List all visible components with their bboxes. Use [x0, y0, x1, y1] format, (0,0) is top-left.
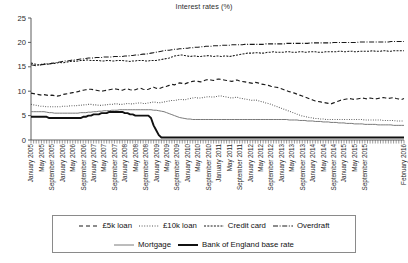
x-axis-tick-label: September 2011: [236, 144, 244, 191]
svg-text:5: 5: [22, 111, 26, 120]
legend-label-credit-card: Credit card: [228, 221, 266, 230]
x-axis-tick-label: January 2008: [121, 144, 129, 183]
x-axis-tick-label: May 2010: [194, 144, 202, 172]
x-axis-tick-label: January 2010: [184, 144, 192, 183]
x-axis-tick-label: May 2015: [351, 144, 359, 172]
legend-swatch-10k-loan: [139, 222, 159, 230]
series-line: [31, 112, 404, 138]
x-axis-tick-label: January 2011: [215, 144, 223, 182]
x-axis-tick-label: January 2014: [309, 144, 317, 183]
legend-label-base-rate: Bank of England base rate: [202, 240, 294, 249]
plot-area: 0510152025: [0, 12, 408, 144]
x-axis-tick-label: May 2014: [320, 144, 328, 172]
x-axis-tick-label: September 2008: [142, 144, 150, 191]
x-axis-tick-label: September 2015: [361, 144, 369, 191]
x-axis-tick-label: January 2012: [247, 144, 255, 183]
legend-swatch-overdraft: [273, 222, 293, 230]
x-axis-tick-label: January 2013: [278, 144, 286, 183]
x-axis-tick-label: January 2007: [90, 144, 98, 183]
series-line: [31, 79, 404, 104]
legend-label-10k-loan: £10k loan: [163, 221, 197, 230]
legend-swatch-credit-card: [204, 222, 224, 230]
series-line: [31, 110, 404, 126]
x-axis-tick-label: January 2005: [27, 144, 35, 183]
x-axis-tick-label: September 2014: [330, 144, 338, 191]
x-axis-svg: January 2005May 2005September 2005Januar…: [0, 142, 408, 214]
interest-rates-chart: Interest rates (%) 0510152025 January 20…: [0, 0, 408, 263]
legend-item-base-rate[interactable]: Bank of England base rate: [178, 240, 294, 249]
legend-swatch-5k-loan: [79, 222, 99, 230]
legend-row-2: Mortgage Bank of England base rate: [53, 235, 355, 254]
x-axis-tick-label: January 2006: [59, 144, 67, 183]
x-axis-tick-label: January 2009: [153, 144, 161, 183]
svg-text:15: 15: [18, 62, 26, 71]
svg-text:20: 20: [18, 38, 26, 47]
x-axis-tick-label: September 2012: [267, 144, 275, 191]
legend-row-1: £5k loan £10k loan Credit card Overdraft: [53, 216, 355, 235]
x-axis-tick-label: May 2009: [163, 144, 171, 172]
x-axis-tick-label: February 2016: [400, 144, 408, 185]
plot-svg: 0510152025: [0, 12, 408, 144]
legend-item-10k-loan[interactable]: £10k loan: [139, 221, 197, 230]
x-axis-tick-label: May 2006: [69, 144, 77, 172]
chart-legend: £5k loan £10k loan Credit card Overdraft: [52, 215, 356, 253]
legend-label-overdraft: Overdraft: [297, 221, 330, 230]
x-axis-tick-label: May 2012: [257, 144, 265, 172]
legend-item-5k-loan[interactable]: £5k loan: [79, 221, 132, 230]
legend-label-mortgage: Mortgage: [138, 240, 171, 249]
x-axis-tick-label: September 2009: [173, 144, 181, 191]
legend-item-credit-card[interactable]: Credit card: [204, 221, 266, 230]
legend-label-5k-loan: £5k loan: [103, 221, 132, 230]
x-axis-tick-label: January 2015: [340, 144, 348, 183]
chart-title: Interest rates (%): [0, 2, 408, 11]
x-axis-tick-label: May 2011: [226, 144, 234, 172]
x-axis-tick-label: September 2013: [299, 144, 307, 191]
legend-swatch-base-rate: [178, 241, 198, 249]
x-axis-tick-label: September 2006: [80, 144, 88, 191]
legend-item-mortgage[interactable]: Mortgage: [114, 240, 171, 249]
x-axis-tick-label: May 2013: [288, 144, 296, 172]
series-line: [31, 41, 404, 65]
svg-text:25: 25: [18, 14, 26, 23]
x-axis-tick-label: September 2007: [111, 144, 119, 191]
svg-text:10: 10: [18, 87, 26, 96]
x-axis-tick-label: May 2005: [38, 144, 46, 172]
x-axis-tick-label: May 2007: [100, 144, 108, 172]
x-axis-tick-label: September 2005: [48, 144, 56, 191]
x-axis-tick-label: September 2010: [205, 144, 213, 191]
legend-swatch-mortgage: [114, 241, 134, 249]
legend-item-overdraft[interactable]: Overdraft: [273, 221, 330, 230]
x-axis-tick-label: May 2008: [132, 144, 140, 172]
